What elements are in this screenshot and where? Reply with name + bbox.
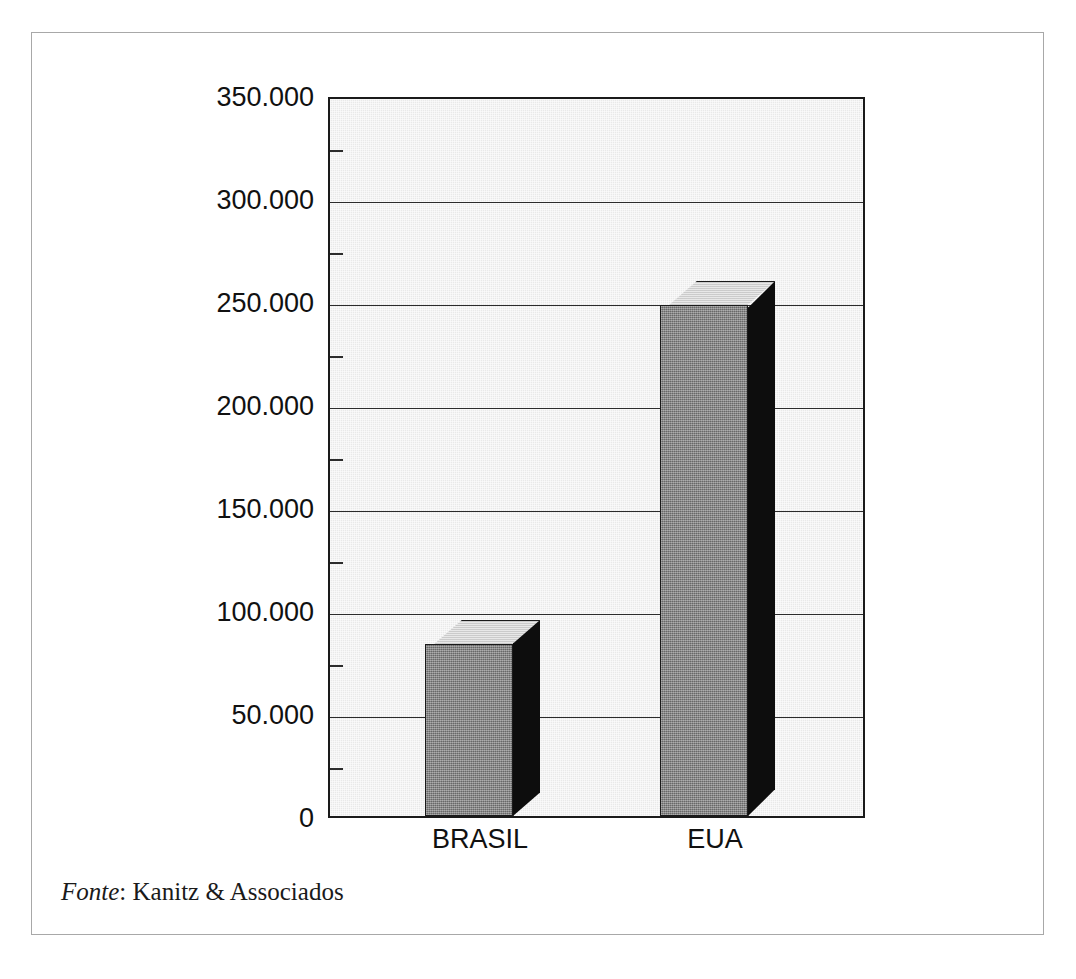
gridline-150000 xyxy=(330,511,863,512)
bar-eua-front-face xyxy=(660,305,748,816)
minor-tick-275000 xyxy=(330,253,343,255)
bar-eua[interactable] xyxy=(660,281,775,816)
y-tick-label: 200.000 xyxy=(124,393,314,420)
bar-brasil[interactable] xyxy=(425,620,540,816)
gridline-250000 xyxy=(330,305,863,306)
x-axis-labels: BRASIL EUA xyxy=(328,826,865,866)
y-tick-label: 350.000 xyxy=(124,84,314,111)
source-note: Fonte: Kanitz & Associados xyxy=(61,878,344,906)
gridline-300000 xyxy=(330,202,863,203)
bar-eua-side-face xyxy=(748,281,775,816)
source-label: Fonte xyxy=(61,878,119,905)
source-value: Kanitz & Associados xyxy=(133,878,344,905)
plot-area xyxy=(328,97,865,818)
gridline-100000 xyxy=(330,614,863,615)
source-separator: : xyxy=(119,878,132,905)
y-tick-label: 50.000 xyxy=(124,702,314,729)
y-tick-label: 250.000 xyxy=(124,290,314,317)
minor-tick-225000 xyxy=(330,356,343,358)
x-tick-label-brasil: BRASIL xyxy=(432,826,528,853)
minor-tick-75000 xyxy=(330,665,343,667)
x-tick-label-eua: EUA xyxy=(687,826,743,853)
minor-tick-175000 xyxy=(330,459,343,461)
bar-brasil-front-face xyxy=(425,644,513,816)
y-tick-label: 0 xyxy=(124,805,314,832)
y-axis-labels: 350.000 300.000 250.000 200.000 150.000 … xyxy=(118,97,314,818)
gridline-200000 xyxy=(330,408,863,409)
minor-tick-325000 xyxy=(330,150,343,152)
bar-brasil-side-face xyxy=(513,620,540,816)
y-tick-label: 300.000 xyxy=(124,187,314,214)
y-tick-label: 150.000 xyxy=(124,496,314,523)
gridline-50000 xyxy=(330,717,863,718)
minor-tick-125000 xyxy=(330,562,343,564)
y-tick-label: 100.000 xyxy=(124,599,314,626)
figure-frame: 350.000 300.000 250.000 200.000 150.000 … xyxy=(31,32,1044,935)
minor-tick-25000 xyxy=(330,768,343,770)
